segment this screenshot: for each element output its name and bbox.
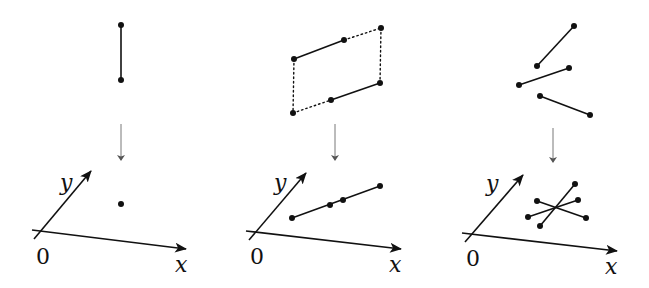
endpoint-3d bbox=[516, 82, 522, 88]
endpoint-projected bbox=[525, 214, 531, 220]
endpoint-3d bbox=[118, 22, 124, 28]
endpoint-3d bbox=[571, 23, 577, 29]
endpoint-projected bbox=[327, 202, 333, 208]
endpoint-3d bbox=[587, 112, 593, 118]
segment-3d bbox=[537, 26, 574, 66]
origin-label: 0 bbox=[36, 244, 50, 269]
endpoint-3d bbox=[377, 80, 383, 86]
panel-parallel-segments: y 0 x bbox=[246, 25, 402, 277]
dotted-edge bbox=[380, 28, 381, 83]
segment-3d bbox=[294, 40, 344, 59]
y-axis-label: y bbox=[59, 170, 73, 195]
segment-projected bbox=[537, 201, 586, 218]
panel-general-segments: y 0 x bbox=[462, 23, 618, 279]
endpoint-3d bbox=[378, 25, 384, 31]
endpoint-projected bbox=[537, 223, 543, 229]
segment-projected bbox=[292, 186, 380, 218]
endpoint-3d bbox=[534, 63, 540, 69]
endpoint-3d bbox=[291, 56, 297, 62]
y-axis-label: y bbox=[485, 171, 499, 196]
y-axis-label: y bbox=[273, 170, 287, 195]
endpoint-projected bbox=[583, 215, 589, 221]
segment-3d bbox=[519, 68, 569, 85]
endpoint-projected bbox=[575, 197, 581, 203]
x-axis-label: x bbox=[605, 254, 618, 279]
segment-projected bbox=[540, 184, 575, 226]
dotted-edge bbox=[293, 59, 294, 113]
endpoint-3d bbox=[118, 77, 124, 83]
origin-label: 0 bbox=[466, 246, 480, 271]
endpoint-3d bbox=[290, 110, 296, 116]
endpoint-3d bbox=[566, 65, 572, 71]
endpoint-3d bbox=[341, 37, 347, 43]
endpoint-projected bbox=[377, 183, 383, 189]
endpoint-projected bbox=[289, 215, 295, 221]
endpoint-projected bbox=[118, 201, 124, 207]
x-axis-label: x bbox=[175, 252, 188, 277]
x-axis bbox=[246, 231, 401, 249]
segment-3d bbox=[331, 83, 380, 100]
origin-label: 0 bbox=[250, 244, 264, 269]
dotted-edge bbox=[344, 28, 381, 40]
endpoint-projected bbox=[534, 198, 540, 204]
panel-vertical-segment: y 0 x bbox=[32, 22, 188, 277]
endpoint-projected bbox=[572, 181, 578, 187]
endpoint-3d bbox=[537, 93, 543, 99]
x-axis-label: x bbox=[389, 252, 402, 277]
segment-3d bbox=[540, 96, 590, 115]
x-axis bbox=[462, 233, 617, 251]
endpoint-projected bbox=[340, 197, 346, 203]
x-axis bbox=[32, 230, 186, 249]
dotted-edge bbox=[293, 100, 331, 113]
projection-diagram: y 0 x y 0 x y 0 x bbox=[0, 0, 649, 288]
endpoint-3d bbox=[328, 97, 334, 103]
